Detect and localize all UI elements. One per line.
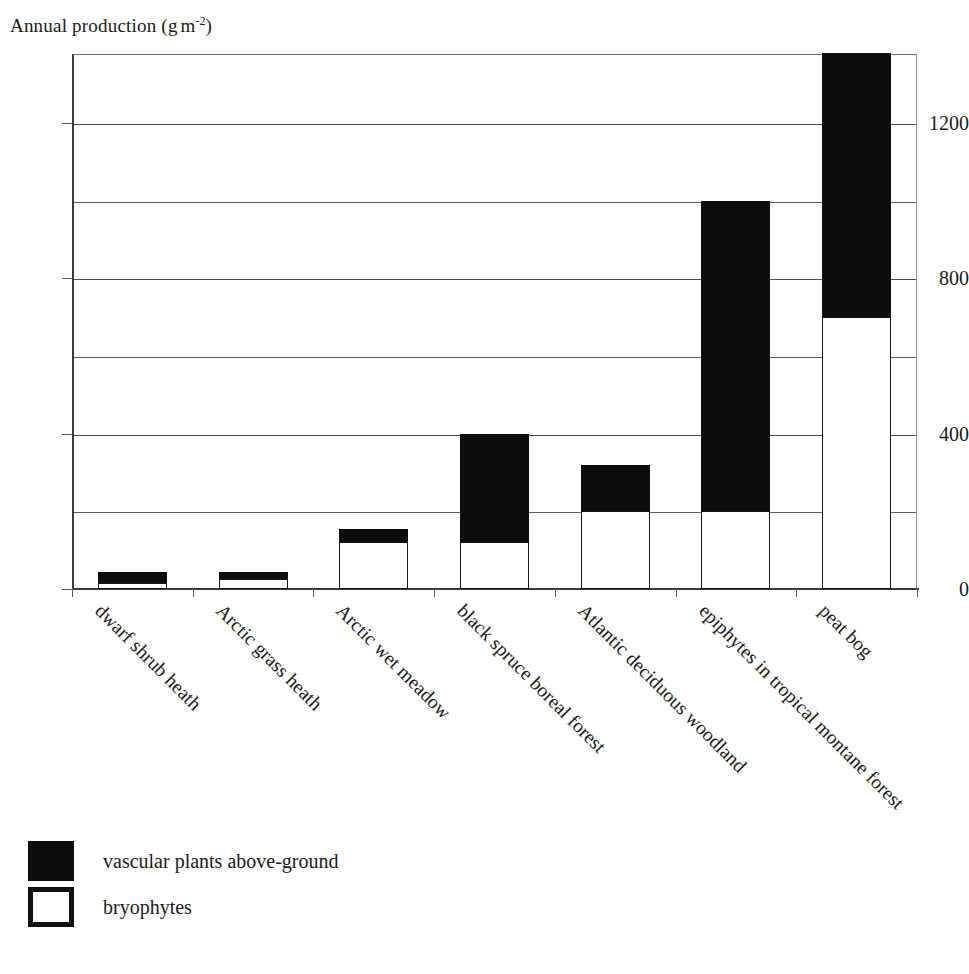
legend-item-vascular: vascular plants above-ground xyxy=(28,838,338,884)
legend-swatch-bryophytes-icon xyxy=(28,887,74,927)
chart-legend: vascular plants above-ground bryophytes xyxy=(28,838,338,930)
bar-segment-bryophytes[interactable] xyxy=(339,542,408,589)
x-tick-mark xyxy=(676,588,677,597)
y-tick-mark-0 xyxy=(62,589,72,590)
y-axis-title-main: Annual production (g xyxy=(10,15,178,36)
legend-label-bryophytes: bryophytes xyxy=(103,896,192,919)
y-tick-mark-800 xyxy=(62,278,72,279)
bar-group[interactable] xyxy=(98,572,167,589)
y-axis-title: Annual production (gm-2) xyxy=(10,14,212,37)
x-axis-category-label: Arctic wet meadow xyxy=(332,600,456,724)
x-axis-category-label: Arctic grass heath xyxy=(211,600,326,715)
bar-segment-bryophytes[interactable] xyxy=(460,542,529,589)
legend-label-vascular: vascular plants above-ground xyxy=(103,850,338,873)
y-tick-mark-1200 xyxy=(62,123,72,124)
y-axis-title-unit: m xyxy=(181,15,196,36)
bar-segment-vascular[interactable] xyxy=(219,572,288,580)
bar-segment-vascular[interactable] xyxy=(460,434,529,543)
x-tick-mark xyxy=(72,588,73,597)
x-tick-mark xyxy=(193,588,194,597)
bar-segment-vascular[interactable] xyxy=(581,465,650,512)
x-axis-category-label: dwarf shrub heath xyxy=(90,600,205,715)
bar-segment-bryophytes[interactable] xyxy=(822,317,891,589)
bar-group[interactable] xyxy=(822,53,891,589)
y-axis-title-close: ) xyxy=(206,15,213,36)
bar-group[interactable] xyxy=(219,572,288,589)
y-axis-title-exponent: -2 xyxy=(196,14,206,28)
x-axis-category-label: peat bog xyxy=(815,600,878,663)
bar-group[interactable] xyxy=(460,434,529,589)
bar-segment-vascular[interactable] xyxy=(339,529,408,543)
x-tick-mark xyxy=(555,588,556,597)
bar-segment-bryophytes[interactable] xyxy=(581,511,650,589)
legend-item-bryophytes: bryophytes xyxy=(28,884,338,930)
bar-group[interactable] xyxy=(701,201,770,589)
bar-group[interactable] xyxy=(339,529,408,589)
bar-segment-bryophytes[interactable] xyxy=(219,579,288,589)
bar-segment-vascular[interactable] xyxy=(98,572,167,584)
bar-segment-bryophytes[interactable] xyxy=(701,511,770,589)
bar-segment-vascular[interactable] xyxy=(822,53,891,317)
bar-segment-bryophytes[interactable] xyxy=(98,583,167,589)
x-tick-mark xyxy=(917,588,918,597)
x-axis-category-label: epiphytes in tropical montane forest xyxy=(694,600,908,814)
bar-segment-vascular[interactable] xyxy=(701,201,770,512)
bars-layer xyxy=(72,54,917,589)
x-tick-mark xyxy=(796,588,797,597)
y-tick-mark-400 xyxy=(62,434,72,435)
legend-swatch-vascular-icon xyxy=(28,841,74,881)
x-tick-mark xyxy=(434,588,435,597)
x-tick-mark xyxy=(313,588,314,597)
bar-group[interactable] xyxy=(581,465,650,589)
